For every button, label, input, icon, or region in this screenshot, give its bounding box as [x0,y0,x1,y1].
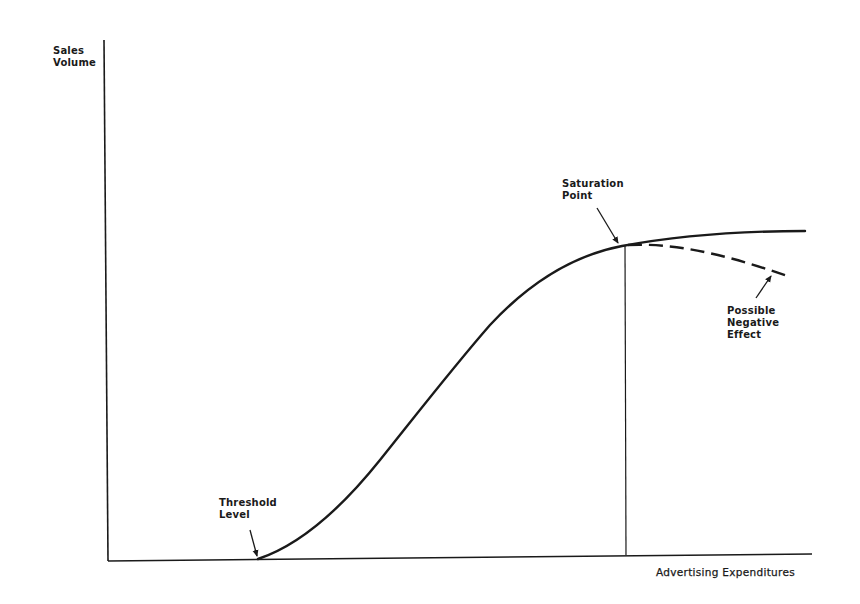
sales-response-curve [258,231,805,559]
x-axis [108,554,812,561]
threshold-level-annotation: Threshold Level [219,497,277,521]
saturation-point-annotation: Saturation Point [562,178,624,202]
chart-canvas [0,0,860,604]
x-axis-label: Advertising Expenditures [656,566,795,578]
negative-effect-arrow-icon [756,276,771,298]
y-axis [104,40,108,561]
negative-effect-annotation: Possible Negative Effect [727,305,779,341]
threshold-arrow-icon [250,530,257,556]
negative-effect-dashed-curve [628,245,790,277]
saturation-arrow-icon [597,208,618,243]
y-axis-label: Sales Volume [53,45,96,69]
saturation-drop-line [625,246,626,555]
